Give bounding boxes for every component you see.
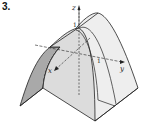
surface-diagram: z 1 y 1 x xyxy=(0,0,147,134)
z-axis-arrow-icon xyxy=(78,5,81,10)
z-tick-label: 1 xyxy=(73,21,77,28)
y-tick-label: 1 xyxy=(97,57,101,64)
z-axis-label: z xyxy=(71,4,76,12)
x-axis-label: x xyxy=(48,67,52,75)
